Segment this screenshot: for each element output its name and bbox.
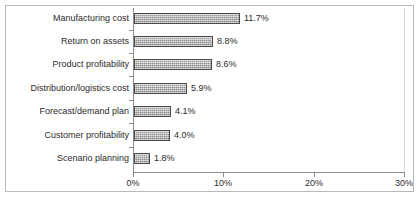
- value-axis-line: [133, 172, 405, 173]
- category-label: Manufacturing cost: [53, 13, 129, 24]
- category-label: Return on assets: [61, 36, 129, 47]
- bar-value-label: 4.0%: [174, 130, 195, 141]
- value-tick: [404, 173, 405, 177]
- bar-value-label: 8.8%: [217, 36, 238, 47]
- category-tick: [129, 147, 133, 148]
- bar: [134, 13, 240, 24]
- category-label: Forecast/demand plan: [39, 106, 129, 117]
- category-label: Scenario planning: [57, 153, 129, 164]
- category-tick: [129, 53, 133, 54]
- value-tick: [314, 173, 315, 177]
- bar: [134, 106, 171, 117]
- category-tick: [129, 123, 133, 124]
- category-tick: [129, 76, 133, 77]
- bar: [134, 36, 213, 47]
- bar-chart-figure: Manufacturing cost11.7%Return on assets8…: [0, 0, 419, 204]
- category-tick: [129, 30, 133, 31]
- value-tick: [223, 173, 224, 177]
- bar: [134, 59, 212, 70]
- value-tick-label: 20%: [305, 178, 323, 188]
- category-label: Distribution/logistics cost: [30, 83, 129, 94]
- bar-value-label: 5.9%: [191, 83, 212, 94]
- value-tick: [133, 173, 134, 177]
- value-tick-label: 10%: [214, 178, 232, 188]
- category-label: Product profitability: [52, 59, 129, 70]
- category-tick: [129, 100, 133, 101]
- bar: [134, 83, 187, 94]
- value-tick-label: 0%: [126, 178, 139, 188]
- bar: [134, 130, 170, 141]
- bar-value-label: 4.1%: [175, 106, 196, 117]
- plot-right-edge: [404, 8, 405, 172]
- bar: [134, 153, 150, 164]
- value-tick-label: 30%: [395, 178, 413, 188]
- bar-value-label: 8.6%: [216, 59, 237, 70]
- category-label: Customer profitability: [44, 130, 129, 141]
- bar-value-label: 11.7%: [244, 13, 269, 24]
- bar-value-label: 1.8%: [154, 153, 175, 164]
